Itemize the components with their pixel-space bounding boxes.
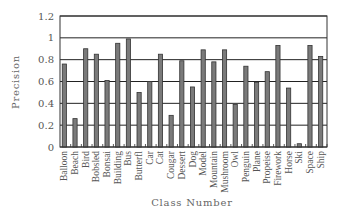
precision-bar-chart: 00.20.40.60.811.2 BalloonBeachBirdBobsle… — [0, 0, 341, 219]
bar-dessert — [180, 61, 184, 147]
x-axis-category-labels: BalloonBeachBirdBobsledBonsaiBuildingBus… — [59, 150, 325, 193]
x-category-label: Butterfl — [134, 151, 144, 181]
x-category-label: Mountain — [209, 151, 219, 188]
x-category-label: Plane — [252, 151, 262, 172]
x-category-label: Model — [198, 151, 208, 176]
bar-horse — [287, 88, 291, 147]
y-tick-label: 0.4 — [38, 98, 54, 109]
bar-cat — [158, 54, 162, 147]
x-axis-title: Class Number — [151, 197, 233, 208]
x-category-label: Owl — [230, 151, 240, 168]
bar-car — [148, 82, 152, 148]
x-category-label: Dessert — [177, 151, 187, 180]
x-category-label: Propeise — [262, 151, 272, 184]
bar-cougar — [169, 115, 173, 147]
bar-balloon — [62, 64, 66, 147]
x-category-label: Mushroom — [220, 150, 230, 192]
y-tick-label: 1 — [48, 32, 54, 43]
bar-beach — [73, 119, 77, 147]
x-category-label: Ship — [316, 151, 326, 169]
x-category-label: Balloon — [59, 151, 69, 181]
y-tick-label: 0.6 — [38, 76, 54, 87]
bar-propeise — [265, 72, 269, 147]
x-category-label: Space — [305, 151, 315, 174]
bar-bonsai — [105, 80, 109, 147]
bar-ship — [319, 56, 323, 147]
bar-bus — [126, 39, 130, 147]
bar-firework — [276, 45, 280, 147]
y-tick-label: 0.8 — [38, 54, 54, 65]
bar-bobsled — [94, 54, 98, 147]
bar-bird — [84, 49, 88, 147]
bars — [62, 39, 327, 147]
x-category-label: Bird — [81, 151, 91, 168]
x-category-label: Car — [145, 150, 155, 165]
x-category-label: Penguin — [241, 151, 251, 182]
x-category-label: Bonsai — [102, 151, 112, 178]
x-category-label: Firework — [273, 151, 283, 186]
y-tick-label: 1.2 — [38, 11, 54, 22]
y-tick-label: 0 — [48, 142, 54, 153]
x-category-label: Building — [113, 151, 123, 185]
y-axis-ticks: 00.20.40.60.811.2 — [38, 11, 54, 153]
bar-owl — [233, 104, 237, 147]
x-category-label: Cougar — [166, 150, 176, 179]
bar-butterfl — [137, 92, 141, 147]
x-category-label: Ski — [294, 151, 304, 164]
bar-space — [308, 45, 312, 147]
x-category-label: Bobsled — [91, 151, 101, 182]
bar-mountain — [212, 62, 216, 147]
x-category-label: Bus — [123, 151, 133, 166]
x-category-label: Dog — [188, 151, 198, 168]
bar-penguin — [244, 66, 248, 147]
bar-plane — [254, 83, 258, 147]
x-category-label: Beach — [70, 151, 80, 175]
bar-model — [201, 50, 205, 147]
bar-mushroom — [222, 50, 226, 147]
bar-building — [116, 43, 120, 147]
bar-dog — [190, 87, 194, 147]
x-category-label: Horse — [284, 151, 294, 174]
x-category-label: Cat — [155, 151, 165, 165]
y-tick-label: 0.2 — [38, 120, 54, 131]
y-axis-title: Precision — [10, 55, 21, 109]
